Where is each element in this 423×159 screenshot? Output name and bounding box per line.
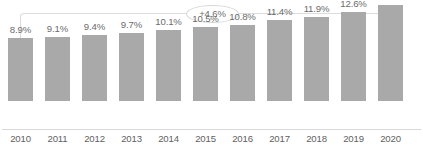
x-tick-label-2017: 2017 [260, 132, 300, 146]
bar-rect[interactable] [341, 12, 366, 102]
bar-rect[interactable] [82, 35, 107, 102]
bar-rect[interactable] [156, 30, 181, 102]
bar-value-label: 10.8% [229, 12, 255, 22]
x-axis-line [2, 129, 421, 130]
bar-value-label: 12.6% [340, 0, 366, 9]
bar-group-2015[interactable]: 10.5% [193, 14, 218, 101]
bar-rect[interactable] [304, 17, 329, 102]
bar-rect[interactable] [45, 37, 70, 102]
bar-rect[interactable] [230, 25, 255, 102]
x-tick-label-2020: 2020 [371, 132, 411, 146]
x-tick-label-2015: 2015 [186, 132, 226, 146]
bar-group-2019[interactable]: 12.6% [341, 0, 366, 101]
bar-group-2011[interactable]: 9.1% [45, 24, 70, 101]
bar-value-label: 9.7% [121, 20, 142, 30]
bar-group-2016[interactable]: 10.8% [230, 12, 255, 101]
bar-value-label: 11.9% [304, 4, 330, 14]
x-tick-label-2018: 2018 [297, 132, 337, 146]
bar-rect[interactable] [119, 33, 144, 102]
bar-value-label: 11.4% [267, 7, 293, 17]
x-tick-label-2016: 2016 [223, 132, 263, 146]
bar-group-2013[interactable]: 9.7% [119, 20, 144, 101]
bar-rect[interactable] [378, 5, 403, 101]
bar-group-2012[interactable]: 9.4% [82, 22, 107, 101]
bar-value-label: 13.5% [377, 0, 403, 2]
bar-value-label: 10.1% [155, 17, 181, 27]
bar-value-label: 10.5% [192, 14, 218, 24]
bar-value-label: 9.4% [84, 22, 105, 32]
bar-rect[interactable] [193, 27, 218, 102]
x-axis-labels: 2010 2011 2012 2013 2014 2015 2016 2017 … [0, 132, 423, 152]
bar-group-2017[interactable]: 11.4% [267, 7, 292, 101]
bar-rect[interactable] [8, 38, 33, 101]
x-tick-label-2013: 2013 [112, 132, 152, 146]
x-tick-label-2012: 2012 [75, 132, 115, 146]
x-tick-label-2014: 2014 [149, 132, 189, 146]
bar-group-2020[interactable]: 13.5% [378, 0, 403, 101]
x-tick-label-2019: 2019 [334, 132, 374, 146]
bar-chart: +4.6% 8.9% 9.1% 9.4% 9.7% 10.1% 10.5% [0, 0, 423, 159]
plot-area: 8.9% 9.1% 9.4% 9.7% 10.1% 10.5% 10.8% [0, 0, 423, 130]
x-tick-label-2010: 2010 [1, 132, 41, 146]
bar-group-2010[interactable]: 8.9% [8, 25, 33, 101]
bar-group-2014[interactable]: 10.1% [156, 17, 181, 101]
bar-rect[interactable] [267, 20, 292, 101]
x-tick-label-2011: 2011 [38, 132, 78, 146]
bar-value-label: 9.1% [47, 24, 68, 34]
bar-value-label: 8.9% [10, 25, 31, 35]
bar-group-2018[interactable]: 11.9% [304, 4, 329, 101]
